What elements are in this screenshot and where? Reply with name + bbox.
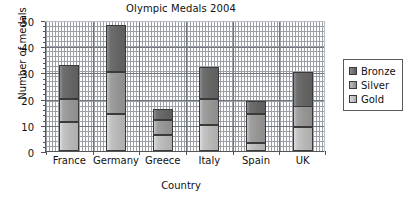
bar-segment-bronze-germany[interactable] bbox=[106, 25, 126, 72]
x-tick-label-germany: Germany bbox=[93, 155, 139, 166]
y-tick-minor-24 bbox=[43, 89, 47, 90]
x-tick-4 bbox=[233, 151, 234, 155]
y-tick-minor-28 bbox=[43, 79, 47, 80]
y-tick-minor-16 bbox=[43, 110, 47, 111]
legend-label-bronze: Bronze bbox=[361, 66, 396, 77]
y-tick-label-30: 30 bbox=[21, 69, 34, 80]
y-tick-label-10: 10 bbox=[21, 121, 34, 132]
y-tick-minor-44 bbox=[43, 37, 47, 38]
bar-segment-gold-uk[interactable] bbox=[293, 127, 313, 151]
bar-segment-gold-germany[interactable] bbox=[106, 114, 126, 151]
bar-segment-gold-greece[interactable] bbox=[153, 135, 173, 151]
y-tick-10: 10 bbox=[41, 126, 46, 127]
y-tick-minor-36 bbox=[43, 58, 47, 59]
category-separator-4 bbox=[233, 21, 234, 151]
bar-segment-silver-greece[interactable] bbox=[153, 120, 173, 136]
bar-segment-bronze-italy[interactable] bbox=[199, 67, 219, 98]
x-tick-6 bbox=[325, 151, 326, 155]
category-separator-2 bbox=[139, 21, 140, 151]
x-tick-3 bbox=[186, 151, 187, 155]
y-tick-label-20: 20 bbox=[21, 95, 34, 106]
y-tick-minor-8 bbox=[43, 131, 47, 132]
bar-germany[interactable] bbox=[106, 25, 126, 151]
bronze-swatch-icon bbox=[349, 67, 357, 75]
bar-segment-silver-uk[interactable] bbox=[293, 106, 313, 127]
bar-uk[interactable] bbox=[293, 72, 313, 151]
y-tick-minor-32 bbox=[43, 68, 47, 69]
y-tick-minor-34 bbox=[43, 63, 47, 64]
category-separator-3 bbox=[186, 21, 187, 151]
y-tick-minor-26 bbox=[43, 84, 47, 85]
x-tick-label-france: France bbox=[53, 155, 86, 166]
y-tick-50: 50 bbox=[41, 21, 46, 22]
y-tick-minor-42 bbox=[43, 42, 47, 43]
chart-legend: Bronze Silver Gold bbox=[343, 59, 403, 111]
x-tick-0 bbox=[46, 151, 47, 155]
bar-segment-silver-italy[interactable] bbox=[199, 99, 219, 125]
bar-segment-bronze-greece[interactable] bbox=[153, 109, 173, 120]
category-separator-1 bbox=[93, 21, 94, 151]
y-tick-minor-22 bbox=[43, 94, 47, 95]
y-tick-minor-6 bbox=[43, 136, 47, 137]
y-tick-minor-38 bbox=[43, 52, 47, 53]
y-tick-20: 20 bbox=[41, 100, 46, 101]
gold-swatch-icon bbox=[349, 95, 357, 103]
y-tick-label-50: 50 bbox=[21, 17, 34, 28]
x-tick-label-italy: Italy bbox=[198, 155, 220, 166]
bar-segment-bronze-uk[interactable] bbox=[293, 72, 313, 106]
bar-greece[interactable] bbox=[153, 109, 173, 151]
bar-segment-silver-spain[interactable] bbox=[246, 114, 266, 143]
bar-segment-bronze-france[interactable] bbox=[59, 65, 79, 99]
bar-segment-bronze-spain[interactable] bbox=[246, 101, 266, 114]
bar-italy[interactable] bbox=[199, 67, 219, 151]
legend-label-gold: Gold bbox=[361, 94, 384, 105]
plot-area: 0 10 20 30 40 50 bbox=[45, 21, 325, 152]
y-tick-minor-2 bbox=[43, 147, 47, 148]
x-tick-2 bbox=[139, 151, 140, 155]
bar-spain[interactable] bbox=[246, 101, 266, 151]
y-tick-minor-18 bbox=[43, 105, 47, 106]
legend-item-gold[interactable]: Gold bbox=[349, 92, 398, 106]
bar-segment-gold-france[interactable] bbox=[59, 122, 79, 151]
x-tick-5 bbox=[279, 151, 280, 155]
olympic-medals-chart: Olympic Medals 2004 Number of medals Cou… bbox=[0, 0, 415, 199]
y-tick-label-40: 40 bbox=[21, 43, 34, 54]
chart-title: Olympic Medals 2004 bbox=[36, 3, 326, 14]
bar-segment-gold-spain[interactable] bbox=[246, 143, 266, 151]
x-axis-label: Country bbox=[36, 180, 326, 191]
silver-swatch-icon bbox=[349, 81, 357, 89]
x-tick-label-greece: Greece bbox=[145, 155, 181, 166]
bar-segment-silver-germany[interactable] bbox=[106, 72, 126, 114]
y-tick-label-0: 0 bbox=[28, 148, 34, 159]
y-tick-40: 40 bbox=[41, 47, 46, 48]
y-tick-minor-46 bbox=[43, 31, 47, 32]
x-tick-label-spain: Spain bbox=[242, 155, 270, 166]
y-tick-minor-48 bbox=[43, 26, 47, 27]
legend-item-bronze[interactable]: Bronze bbox=[349, 64, 398, 78]
bar-segment-gold-italy[interactable] bbox=[199, 125, 219, 151]
category-separator-5 bbox=[279, 21, 280, 151]
y-tick-minor-4 bbox=[43, 142, 47, 143]
legend-item-silver[interactable]: Silver bbox=[349, 78, 398, 92]
bar-france[interactable] bbox=[59, 65, 79, 152]
y-tick-minor-12 bbox=[43, 121, 47, 122]
y-tick-30: 30 bbox=[41, 73, 46, 74]
legend-label-silver: Silver bbox=[361, 80, 389, 91]
x-tick-label-uk: UK bbox=[296, 155, 310, 166]
y-tick-minor-14 bbox=[43, 115, 47, 116]
bar-segment-silver-france[interactable] bbox=[59, 99, 79, 123]
